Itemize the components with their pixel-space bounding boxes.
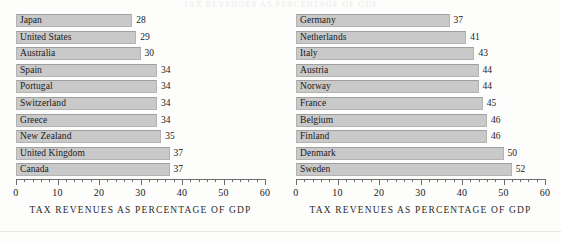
chart-right: Germany37Netherlands41Italy43Austria44No… — [280, 7, 561, 231]
axis-minor-tick — [470, 179, 471, 182]
axis-tick-label: 40 — [167, 187, 197, 198]
axis-major-tick — [296, 179, 297, 185]
clipped-page-title: TAX REVENUES AS PERCENTAGE OF GDP — [0, 0, 561, 7]
axis-major-tick — [16, 179, 17, 185]
axis-minor-tick — [354, 179, 355, 182]
axis-minor-tick — [149, 179, 150, 182]
axis-minor-tick — [174, 179, 175, 182]
bar-category-label: Belgium — [300, 114, 333, 127]
bar-value-label: 37 — [454, 14, 464, 27]
bar-value-label: 46 — [491, 130, 501, 143]
bar-category-label: Switzerland — [20, 97, 66, 110]
axis-minor-tick — [91, 179, 92, 182]
bar-category-label: Germany — [300, 14, 336, 27]
bar-row: United Kingdom37 — [0, 147, 281, 160]
bar-row: Switzerland34 — [0, 97, 281, 110]
bar-category-label: United Kingdom — [20, 147, 85, 160]
bar-value-label: 37 — [174, 163, 184, 176]
bar-row: Denmark50 — [280, 147, 561, 160]
axis-major-tick — [338, 179, 339, 185]
axis-minor-tick — [437, 179, 438, 182]
axis-minor-tick — [512, 179, 513, 182]
bar-category-label: France — [300, 97, 326, 110]
axis-minor-tick — [329, 179, 330, 182]
axis-major-tick — [58, 179, 59, 185]
bar-category-label: Italy — [300, 47, 318, 60]
bar-row: Sweden52 — [280, 163, 561, 176]
bar-value-label: 44 — [483, 80, 493, 93]
axis-minor-tick — [66, 179, 67, 182]
axis-minor-tick — [371, 179, 372, 182]
bar-row: France45 — [280, 97, 561, 110]
axis-minor-tick — [107, 179, 108, 182]
axis-major-tick — [462, 179, 463, 185]
bar-value-label: 29 — [140, 31, 150, 44]
bar-row: Greece34 — [0, 114, 281, 127]
axis-major-tick — [421, 179, 422, 185]
bar-value-label: 43 — [478, 47, 488, 60]
bar-row: Portugal34 — [0, 80, 281, 93]
bar-value-label: 46 — [491, 114, 501, 127]
axis-tick-label: 40 — [447, 187, 477, 198]
axis-minor-tick — [157, 179, 158, 182]
bar-row: New Zealand35 — [0, 130, 281, 143]
bar-row: Japan28 — [0, 14, 281, 27]
bar-value-label: 30 — [145, 47, 155, 60]
axis-minor-tick — [429, 179, 430, 182]
axis-major-tick — [141, 179, 142, 185]
bar-category-label: Portugal — [20, 80, 53, 93]
chart-right-axis-title: TAX REVENUES AS PERCENTAGE OF GDP — [280, 205, 561, 215]
axis-tick-label: 20 — [84, 187, 114, 198]
bar-value-label: 34 — [161, 80, 171, 93]
chart-left-plot: Japan28United States29Australia30Spain34… — [0, 7, 281, 179]
bar-row: Austria44 — [280, 64, 561, 77]
axis-minor-tick — [346, 179, 347, 182]
axis-minor-tick — [49, 179, 50, 182]
bar-row: Finland46 — [280, 130, 561, 143]
bar-value-label: 35 — [165, 130, 175, 143]
page-bottom-rule — [0, 231, 561, 232]
bar-row: Norway44 — [280, 80, 561, 93]
bar-category-label: United States — [20, 31, 72, 44]
bar-category-label: Netherlands — [300, 31, 346, 44]
axis-major-tick — [224, 179, 225, 185]
bar-value-label: 37 — [174, 147, 184, 160]
bar-value-label: 34 — [161, 64, 171, 77]
bar-value-label: 44 — [483, 64, 493, 77]
axis-minor-tick — [132, 179, 133, 182]
bar-category-label: Greece — [20, 114, 47, 127]
bar-row: Germany37 — [280, 14, 561, 27]
chart-left-axis-title: TAX REVENUES AS PERCENTAGE OF GDP — [0, 205, 281, 215]
bar-value-label: 34 — [161, 97, 171, 110]
axis-minor-tick — [362, 179, 363, 182]
axis-tick-label: 30 — [126, 187, 156, 198]
axis-minor-tick — [412, 179, 413, 182]
axis-major-tick — [504, 179, 505, 185]
axis-minor-tick — [404, 179, 405, 182]
axis-major-tick — [379, 179, 380, 185]
bar-value-label: 50 — [508, 147, 518, 160]
bar-value-label: 45 — [487, 97, 497, 110]
bar-category-label: Finland — [300, 130, 329, 143]
bar-category-label: Canada — [20, 163, 49, 176]
axis-minor-tick — [74, 179, 75, 182]
axis-minor-tick — [313, 179, 314, 182]
axis-minor-tick — [116, 179, 117, 182]
axis-minor-tick — [82, 179, 83, 182]
bar-row: Belgium46 — [280, 114, 561, 127]
axis-major-tick — [545, 179, 546, 185]
axis-minor-tick — [33, 179, 34, 182]
axis-tick-label: 0 — [1, 187, 31, 198]
bar-row: Italy43 — [280, 47, 561, 60]
axis-minor-tick — [240, 179, 241, 182]
bar-value-label: 34 — [161, 114, 171, 127]
bar-row: Canada37 — [0, 163, 281, 176]
axis-minor-tick — [495, 179, 496, 182]
chart-right-axis: TAX REVENUES AS PERCENTAGE OF GDP 010203… — [280, 179, 561, 231]
axis-minor-tick — [215, 179, 216, 182]
axis-minor-tick — [165, 179, 166, 182]
axis-tick-label: 50 — [209, 187, 239, 198]
axis-minor-tick — [124, 179, 125, 182]
bar-category-label: Austria — [300, 64, 328, 77]
axis-minor-tick — [41, 179, 42, 182]
